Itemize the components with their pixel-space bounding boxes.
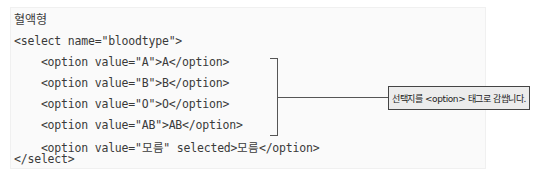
callout-text: 선택지를 <option> 태그로 감쌉니다. bbox=[392, 92, 526, 105]
code-title: 혈액형 bbox=[14, 10, 46, 27]
code-line-option-a: <option value="A">A</option> bbox=[14, 55, 229, 69]
options-bracket bbox=[270, 58, 278, 136]
code-line-select-close: </select> bbox=[14, 152, 75, 166]
code-line-option-ab: <option value="AB">AB</option> bbox=[14, 118, 243, 132]
callout-connector-line bbox=[278, 97, 388, 98]
code-line-option-b: <option value="B">B</option> bbox=[14, 76, 229, 90]
callout-note: 선택지를 <option> 태그로 감쌉니다. bbox=[388, 86, 530, 110]
code-line-select-open: <select name="bloodtype"> bbox=[14, 34, 182, 48]
code-line-option-o: <option value="O">O</option> bbox=[14, 97, 229, 111]
